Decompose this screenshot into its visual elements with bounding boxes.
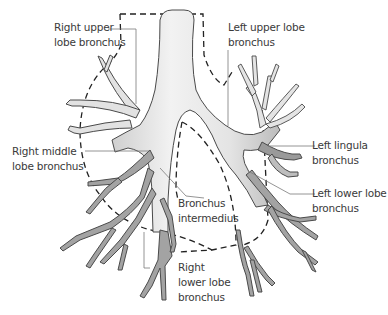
label-left-upper-lobe-bronchus: Left upper lobe bronchus (228, 20, 305, 50)
label-left-lingula-bronchus: Left lingula bronchus (312, 138, 368, 168)
label-right-middle-lobe-bronchus: Right middle lobe bronchus (12, 144, 84, 174)
left-upper-lobe-branches (238, 56, 305, 128)
label-right-upper-lobe-bronchus: Right upper lobe bronchus (54, 20, 126, 50)
label-left-lower-lobe-bronchus: Left lower lobe bronchus (312, 186, 387, 216)
label-bronchus-intermedius: Bronchus intermedius (178, 196, 238, 226)
right-upper-lobe-branches (66, 55, 140, 134)
label-right-lower-lobe-bronchus: Right lower lobe bronchus (178, 260, 231, 305)
lingula-branches (258, 142, 302, 177)
